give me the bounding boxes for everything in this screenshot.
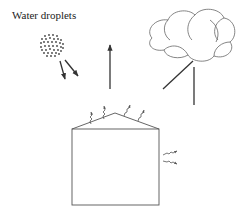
water-droplets-cluster — [40, 34, 64, 57]
droplet-arrow-down — [60, 61, 65, 79]
cloud-diagonal-line — [163, 61, 193, 89]
house — [72, 113, 159, 205]
wall-squiggle-arrows — [163, 151, 177, 164]
water-droplets-label: Water droplets — [12, 9, 76, 21]
droplet-arrow-up — [65, 60, 78, 76]
cloud-arrows — [163, 61, 194, 105]
roof-wavy-arrow-4 — [138, 110, 144, 121]
house-roof — [72, 113, 159, 129]
wall-wavy-arrow-1 — [163, 151, 177, 155]
roof-squiggle-arrows — [90, 105, 144, 124]
roof-wavy-arrow-3 — [124, 105, 130, 116]
wall-wavy-arrow-2 — [163, 161, 177, 164]
house-walls — [72, 129, 159, 205]
cloud — [150, 9, 235, 61]
droplet-arrows — [60, 60, 78, 79]
diagram-canvas — [0, 0, 249, 216]
